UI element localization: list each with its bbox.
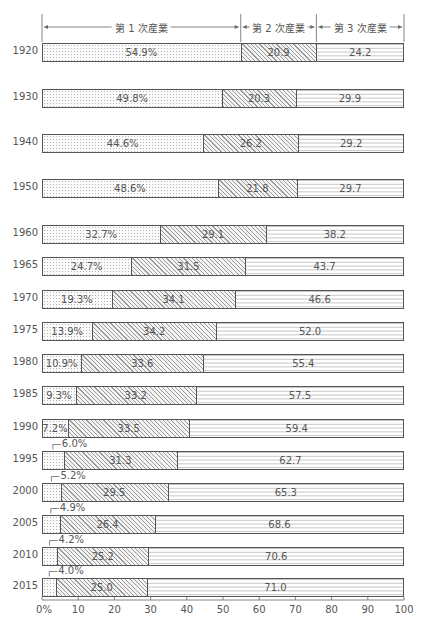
value-label-sector-2: 31.5 <box>131 257 245 276</box>
year-label: 1950 <box>0 181 38 192</box>
year-label: 1975 <box>0 324 38 335</box>
value-label-sector-2: 26.4 <box>60 515 156 534</box>
value-label-sector-2: 25.2 <box>57 547 148 566</box>
value-label-sector-2: 20.9 <box>241 43 317 62</box>
value-label-sector-3: 59.4 <box>189 419 404 438</box>
value-label-sector-1: 9.3% <box>42 386 76 405</box>
value-label-sector-3: 29.9 <box>296 89 404 108</box>
value-label-sector-2: 33.6 <box>81 354 203 373</box>
value-label-sector-2: 31.3 <box>64 451 177 470</box>
callout-label-sector-1: 5.2% <box>60 470 85 481</box>
callout-label-sector-1: 4.9% <box>60 502 85 513</box>
x-tick-label: 80 <box>325 604 338 615</box>
value-label-sector-1: 44.6% <box>42 134 203 153</box>
value-label-sector-2: 26.2 <box>203 134 298 153</box>
bar-segment-sector-1 <box>42 578 56 597</box>
bar-segment-sector-1 <box>42 515 60 534</box>
x-tick-label: 70 <box>289 604 302 615</box>
value-label-sector-1: 48.6% <box>42 179 218 198</box>
value-label-sector-1: 10.9% <box>42 354 81 373</box>
value-label-sector-3: 38.2 <box>266 225 404 244</box>
value-label-sector-3: 52.0 <box>216 322 404 341</box>
value-label-sector-3: 71.0 <box>147 578 404 597</box>
x-tick-label: 100 <box>394 604 413 615</box>
x-tick-label: 50 <box>217 604 230 615</box>
value-label-sector-2: 20.3 <box>222 89 295 108</box>
value-label-sector-3: 57.5 <box>196 386 404 405</box>
value-label-sector-3: 65.3 <box>168 483 404 502</box>
callout-label-sector-1: 4.0% <box>58 565 83 576</box>
bar-segment-sector-1 <box>42 451 64 470</box>
value-label-sector-3: 62.7 <box>177 451 404 470</box>
value-label-sector-1: 32.7% <box>42 225 160 244</box>
value-label-sector-1: 54.9% <box>42 43 241 62</box>
x-tick-label: 60 <box>253 604 266 615</box>
value-label-sector-1: 13.9% <box>42 322 92 341</box>
year-label: 1965 <box>0 259 38 270</box>
year-label: 1960 <box>0 227 38 238</box>
year-label: 1940 <box>0 136 38 147</box>
value-label-sector-2: 21.8 <box>218 179 297 198</box>
x-tick-label: 30 <box>144 604 157 615</box>
value-label-sector-3: 29.2 <box>298 134 404 153</box>
header-label-sector-1: 第 1 次産業 <box>112 20 171 35</box>
x-tick-label: 20 <box>108 604 121 615</box>
callout-label-sector-1: 4.2% <box>59 534 84 545</box>
year-label: 2015 <box>0 580 38 591</box>
value-label-sector-2: 29.5 <box>61 483 168 502</box>
year-label: 1970 <box>0 292 38 303</box>
value-label-sector-2: 25.0 <box>56 578 147 597</box>
year-label: 1995 <box>0 453 38 464</box>
callout-label-sector-1: 6.0% <box>62 438 87 449</box>
year-label: 1930 <box>0 91 38 102</box>
value-label-sector-1: 19.3% <box>42 290 112 309</box>
value-label-sector-2: 29.1 <box>160 225 265 244</box>
value-label-sector-1: 7.2% <box>42 419 68 438</box>
year-label: 1980 <box>0 356 38 367</box>
value-label-sector-3: 68.6 <box>155 515 403 534</box>
year-label: 2000 <box>0 485 38 496</box>
x-tick-label: 90 <box>361 604 374 615</box>
year-label: 1920 <box>0 45 38 56</box>
value-label-sector-2: 34.2 <box>92 322 216 341</box>
value-label-sector-3: 46.6 <box>235 290 404 309</box>
stacked-bar-chart: 第 1 次産業第 2 次産業第 3 次産業192054.9%20.924.219… <box>0 0 428 638</box>
value-label-sector-1: 24.7% <box>42 257 131 276</box>
header-label-sector-2: 第 2 次産業 <box>249 20 308 35</box>
value-label-sector-3: 70.6 <box>148 547 404 566</box>
value-label-sector-3: 29.7 <box>297 179 404 198</box>
x-tick-label: 10 <box>72 604 85 615</box>
year-label: 1990 <box>0 421 38 432</box>
value-label-sector-1: 49.8% <box>42 89 222 108</box>
bar-segment-sector-1 <box>42 547 57 566</box>
bar-segment-sector-1 <box>42 483 61 502</box>
year-label: 2005 <box>0 517 38 528</box>
value-label-sector-2: 33.5 <box>68 419 189 438</box>
year-label: 1985 <box>0 388 38 399</box>
value-label-sector-2: 33.2 <box>76 386 196 405</box>
value-label-sector-3: 43.7 <box>245 257 403 276</box>
value-label-sector-2: 34.1 <box>112 290 235 309</box>
year-label: 2010 <box>0 549 38 560</box>
value-label-sector-3: 55.4 <box>203 354 404 373</box>
x-tick-label: 40 <box>180 604 193 615</box>
x-tick-label: 0% <box>36 604 52 615</box>
value-label-sector-3: 24.2 <box>316 43 404 62</box>
header-label-sector-3: 第 3 次産業 <box>331 20 390 35</box>
